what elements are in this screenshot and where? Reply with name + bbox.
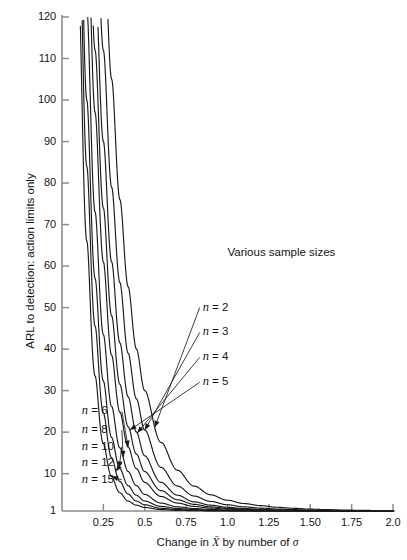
y-tick-label: 110 xyxy=(26,52,56,64)
x-axis-title: Change in X̄ by number of σ xyxy=(62,536,393,548)
y-tick-label: 70 xyxy=(26,218,56,230)
y-tick-label: 1 xyxy=(26,504,56,516)
leader-line xyxy=(155,308,200,428)
x-tick-label: 1.50 xyxy=(290,516,330,528)
leader-arrowhead xyxy=(145,423,150,430)
x-axis-title-text: Change in X̄ by number of σ xyxy=(157,536,299,548)
x-tick-label: 1.0 xyxy=(208,516,248,528)
series-label-n2: n = 2 xyxy=(203,300,229,315)
y-tick-label: 30 xyxy=(26,384,56,396)
series-label-n5: n = 5 xyxy=(203,374,229,389)
chart-canvas xyxy=(0,0,407,560)
series-label-n12: n = 12 xyxy=(82,455,114,470)
curve-n6 xyxy=(91,18,393,511)
series-label-n10: n = 10 xyxy=(82,439,114,454)
x-tick-label: 2.0 xyxy=(373,516,407,528)
leader-line xyxy=(130,382,200,430)
legend-title: Various sample sizes xyxy=(228,246,336,258)
series-label-n6: n = 6 xyxy=(82,403,108,418)
y-tick-label: 100 xyxy=(26,93,56,105)
x-tick-label: 1.75 xyxy=(332,516,372,528)
curve-series xyxy=(80,18,393,511)
y-tick-label: 40 xyxy=(26,342,56,354)
y-tick-label: 90 xyxy=(26,135,56,147)
x-tick-label: 1.25 xyxy=(249,516,289,528)
leader-line xyxy=(145,332,200,430)
leader-line xyxy=(137,357,199,432)
y-tick-label: 120 xyxy=(26,10,56,22)
y-tick-label: 50 xyxy=(26,301,56,313)
series-label-n8: n = 8 xyxy=(82,422,108,437)
curve-n5 xyxy=(93,26,393,511)
leader-arrowhead xyxy=(130,424,137,430)
curve-n2 xyxy=(108,19,393,510)
y-tick-label: 80 xyxy=(26,176,56,188)
x-tick-label: 0.75 xyxy=(166,516,206,528)
series-label-n4: n = 4 xyxy=(203,349,229,364)
y-tick-label: 20 xyxy=(26,425,56,437)
y-tick-label: 60 xyxy=(26,259,56,271)
arl-chart-figure: ARL to detection: action limits only Cha… xyxy=(0,0,407,560)
series-label-n3: n = 3 xyxy=(203,324,229,339)
curve-n8 xyxy=(88,18,393,511)
curve-n4 xyxy=(98,27,393,511)
curve-n12 xyxy=(82,21,393,511)
x-tick-label: 0.25 xyxy=(83,516,123,528)
x-tick-label: 0.5 xyxy=(125,516,165,528)
curve-n10 xyxy=(84,20,393,511)
series-label-n15: n = 15 xyxy=(82,472,114,487)
curve-n15 xyxy=(80,26,393,511)
y-tick-label: 10 xyxy=(26,467,56,479)
leader-arrowhead xyxy=(155,420,160,427)
curve-n3 xyxy=(101,19,393,511)
